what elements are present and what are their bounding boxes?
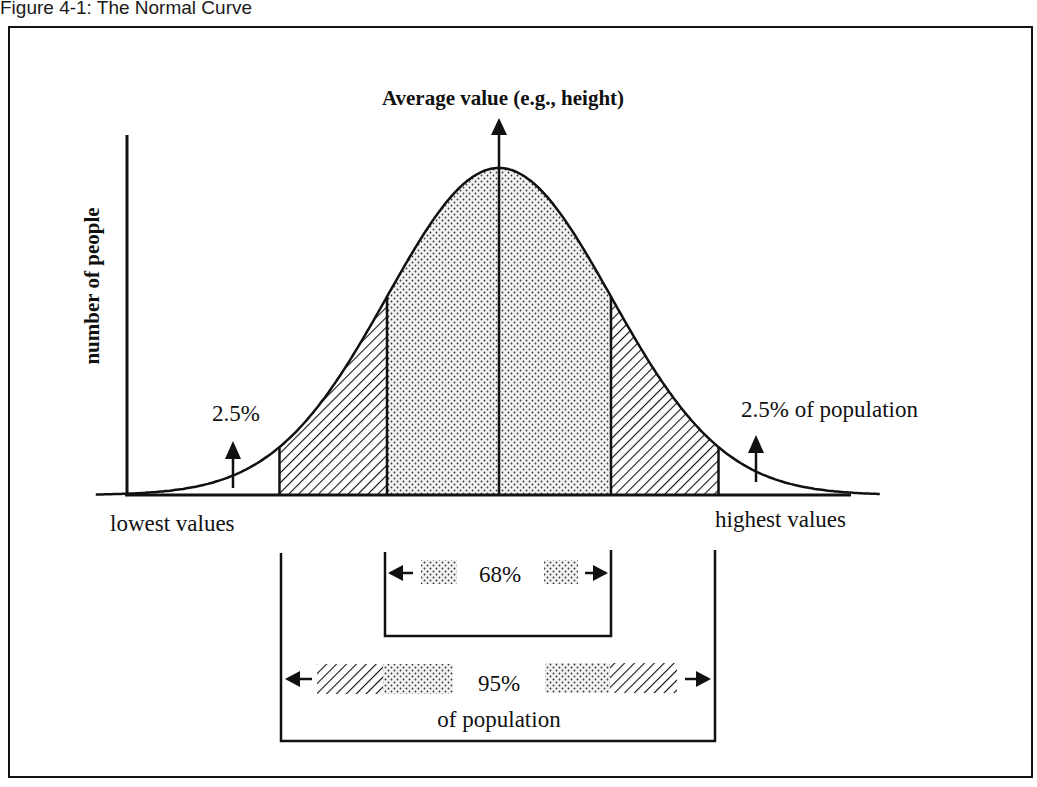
mean-arrow-icon [491, 118, 507, 135]
y-axis-label: number of people [80, 207, 104, 364]
dots-swatch [421, 560, 457, 584]
band-95-label: 95% [478, 671, 520, 696]
arrow-left-icon [388, 565, 403, 581]
hatch-swatch [610, 663, 677, 693]
x-label-highest: highest values [715, 507, 846, 532]
dots-swatch [544, 560, 578, 584]
dots-swatch [545, 663, 610, 693]
normal-curve-diagram: Average value (e.g., height) number of p… [0, 0, 1037, 787]
hatch-swatch [317, 664, 383, 694]
right-tail-label: 2.5% of population [741, 397, 918, 422]
arrow-right-icon [593, 565, 608, 581]
x-label-lowest: lowest values [110, 511, 235, 536]
mean-label: Average value (e.g., height) [382, 86, 624, 110]
arrow-right-icon [696, 671, 711, 687]
right-tail-arrow-icon [748, 435, 764, 453]
band-68-label: 68% [479, 562, 521, 587]
arrow-left-icon [285, 671, 300, 687]
dots-swatch [383, 664, 453, 694]
bracket-68: 68% [385, 550, 611, 636]
band-95-sublabel: of population [437, 707, 561, 732]
left-tail-arrow-icon [225, 441, 241, 459]
left-tail-label: 2.5% [212, 401, 260, 426]
